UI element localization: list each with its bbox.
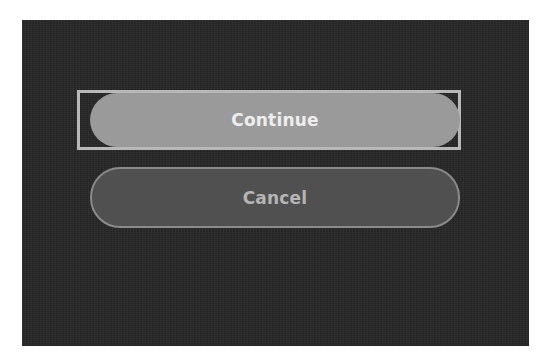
dialog-panel: Continue Cancel (22, 20, 529, 346)
continue-button[interactable]: Continue (90, 93, 460, 147)
cancel-button[interactable]: Cancel (90, 167, 460, 228)
